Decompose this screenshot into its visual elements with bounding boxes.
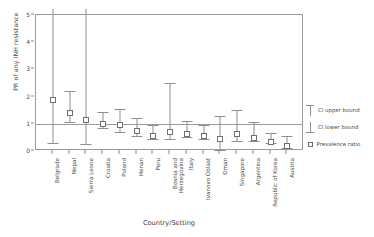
x-axis-tick-label-group: BelgradeNepalSierra LeoneCroatiaPolandHe…: [35, 158, 303, 216]
ci-upper-cap: [248, 122, 259, 123]
x-axis-tick-label: Argentina: [255, 158, 261, 185]
x-axis-tick-label: Republic of Korea: [272, 158, 278, 207]
chart-figure: PR of any INH resistance 012345 Belgrade…: [0, 0, 374, 237]
ci-lower-cap: [248, 141, 259, 142]
y-axis-tick-mark: [31, 95, 34, 96]
legend-swatch-whisker-icon: [306, 105, 314, 116]
ci-upper-cap: [232, 110, 243, 111]
confidence-interval-line: [52, 9, 53, 143]
data-series-prevalence-ratio: [36, 15, 302, 149]
ci-upper-cap: [282, 136, 293, 137]
ci-upper-cap: [181, 121, 192, 122]
ci-lower-cap: [181, 137, 192, 138]
ci-upper-cap: [265, 133, 276, 134]
ci-lower-cap: [81, 144, 92, 145]
y-axis-tick-mark: [31, 150, 34, 151]
legend: CI upper boundCI lower boundPrevalence r…: [306, 104, 374, 162]
x-axis-title: Country/Setting: [35, 219, 303, 227]
y-axis-tick-label: 4: [20, 38, 30, 45]
ci-lower-cap: [114, 132, 125, 133]
x-axis-tick-mark: [152, 150, 153, 154]
prevalence-ratio-marker: [201, 133, 207, 139]
ci-upper-cap: [64, 91, 75, 92]
x-axis-tick-label: Ivanovo Oblast: [205, 158, 211, 200]
x-axis-tick-group: [35, 150, 303, 157]
ci-upper-cap: [198, 125, 209, 126]
prevalence-ratio-marker: [184, 131, 190, 137]
prevalence-ratio-marker: [217, 136, 223, 142]
ci-lower-cap: [64, 122, 75, 123]
x-axis-tick-label: Croatia: [105, 158, 111, 178]
prevalence-ratio-marker: [134, 128, 140, 134]
prevalence-ratio-marker: [251, 135, 257, 141]
x-axis-tick-label: Peru: [155, 158, 161, 170]
ci-upper-cap: [215, 116, 226, 117]
prevalence-ratio-marker: [83, 117, 89, 123]
plot-area: [35, 14, 303, 150]
confidence-interval-line: [69, 91, 70, 122]
ci-upper-cap: [148, 125, 159, 126]
y-axis-tick-mark: [31, 122, 34, 123]
y-axis-tick-group: 012345: [20, 14, 34, 150]
confidence-interval-line: [119, 109, 120, 132]
x-axis-tick-mark: [185, 150, 186, 154]
x-axis-tick-mark: [286, 150, 287, 154]
x-axis-tick-label: Nepal: [71, 158, 77, 174]
ci-upper-cap: [165, 83, 176, 84]
x-axis-tick-mark: [51, 150, 52, 154]
legend-item: Prevalence ratio: [306, 138, 360, 150]
prevalence-ratio-marker: [268, 139, 274, 145]
x-axis-tick-mark: [85, 150, 86, 154]
ci-lower-cap: [98, 128, 109, 129]
y-axis-tick-mark: [31, 14, 34, 15]
ci-lower-cap: [165, 139, 176, 140]
legend-item: CI upper bound: [306, 104, 360, 116]
legend-label: CI upper bound: [318, 107, 360, 113]
y-axis-tick-label: 1: [20, 119, 30, 126]
x-axis-tick-label: Sierra Leone: [88, 158, 94, 193]
prevalence-ratio-marker: [50, 97, 56, 103]
y-axis-tick-label: 2: [20, 92, 30, 99]
x-axis-tick-mark: [102, 150, 103, 154]
y-axis-tick-mark: [31, 41, 34, 42]
x-axis-tick-mark: [135, 150, 136, 154]
ci-lower-cap: [232, 141, 243, 142]
prevalence-ratio-marker: [100, 121, 106, 127]
x-axis-tick-mark: [252, 150, 253, 154]
x-axis-tick-label: Oman: [222, 158, 228, 175]
x-axis-tick-mark: [169, 150, 170, 154]
ci-lower-cap: [131, 136, 142, 137]
x-axis-tick-label: Singapore: [239, 158, 245, 186]
confidence-interval-line: [220, 116, 221, 150]
legend-label: Prevalence ratio: [317, 141, 361, 147]
x-axis-tick-mark: [236, 150, 237, 154]
ci-upper-cap: [114, 109, 125, 110]
ci-lower-cap: [47, 143, 58, 144]
x-axis-tick-mark: [219, 150, 220, 154]
confidence-interval-line: [237, 110, 238, 141]
x-axis-tick-label: Belgrade: [54, 158, 60, 183]
y-axis-tick-label: 0: [20, 147, 30, 154]
legend-swatch-whisker-icon: [306, 122, 314, 133]
y-axis-tick-mark: [31, 68, 34, 69]
y-axis-title: PR of any INH resistance: [12, 0, 19, 117]
x-axis-tick-label: Italy: [188, 158, 194, 170]
prevalence-ratio-marker: [284, 143, 290, 149]
x-axis-tick-label: Poland: [121, 158, 127, 177]
ci-upper-cap: [131, 118, 142, 119]
x-axis-tick-mark: [202, 150, 203, 154]
x-axis-tick-label: Austria: [289, 158, 295, 178]
legend-label: CI lower bound: [318, 124, 359, 130]
prevalence-ratio-marker: [150, 133, 156, 139]
y-axis-tick-label: 5: [20, 11, 30, 18]
prevalence-ratio-marker: [167, 129, 173, 135]
prevalence-ratio-marker: [117, 122, 123, 128]
legend-swatch-square-icon: [308, 142, 313, 147]
x-axis-tick-mark: [68, 150, 69, 154]
ci-upper-cap: [98, 112, 109, 113]
legend-item: CI lower bound: [306, 121, 359, 133]
prevalence-ratio-marker: [67, 110, 73, 116]
x-axis-tick-mark: [118, 150, 119, 154]
confidence-interval-line: [86, 9, 87, 144]
x-axis-tick-label: Bosnia and Herzegovina: [172, 158, 185, 210]
